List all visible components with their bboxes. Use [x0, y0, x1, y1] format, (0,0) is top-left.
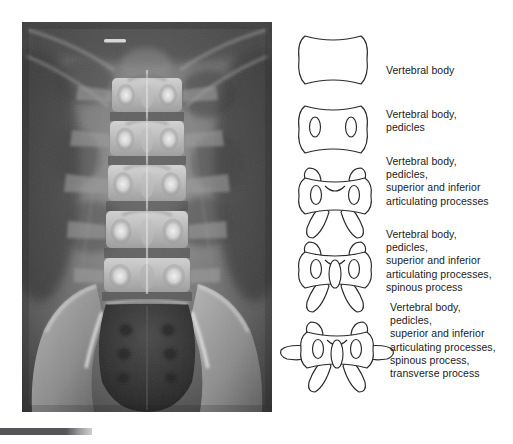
diagram-label-1: Vertebral body	[386, 64, 454, 77]
vertebra-diagram-1	[283, 28, 383, 94]
xray-image-panel	[22, 22, 272, 412]
pedicle-right	[349, 186, 360, 205]
vertebral-body-outline	[299, 178, 372, 214]
ap-lumbar-spine-radiograph	[22, 22, 272, 412]
pedicle-left	[313, 340, 324, 359]
caption-rule	[0, 428, 92, 435]
vertebra-diagram-5	[277, 316, 397, 398]
pedicle-right	[351, 340, 362, 359]
vertebral-body-outline	[299, 106, 368, 153]
spinous-process	[329, 260, 341, 288]
vertebral-body-outline	[299, 36, 368, 84]
vertebra-diagram-4	[283, 240, 387, 318]
diagram-label-2: Vertebral body, pedicles	[386, 108, 457, 134]
pedicle-right	[346, 117, 357, 137]
spinous-process	[331, 340, 343, 368]
vertebra-diagram-2	[283, 100, 383, 162]
diagram-label-5: Vertebral body, pedicles, superior and i…	[390, 301, 496, 380]
pedicle-left	[311, 260, 322, 279]
pedicle-left	[311, 186, 322, 205]
pedicle-left	[310, 117, 321, 137]
vertebra-diagram-column	[283, 22, 393, 397]
vertebra-diagram-3	[283, 166, 387, 242]
pedicle-right	[349, 260, 360, 279]
diagram-label-3: Vertebral body, pedicles, superior and i…	[386, 155, 489, 208]
diagram-label-4: Vertebral body, pedicles, superior and i…	[386, 228, 492, 294]
